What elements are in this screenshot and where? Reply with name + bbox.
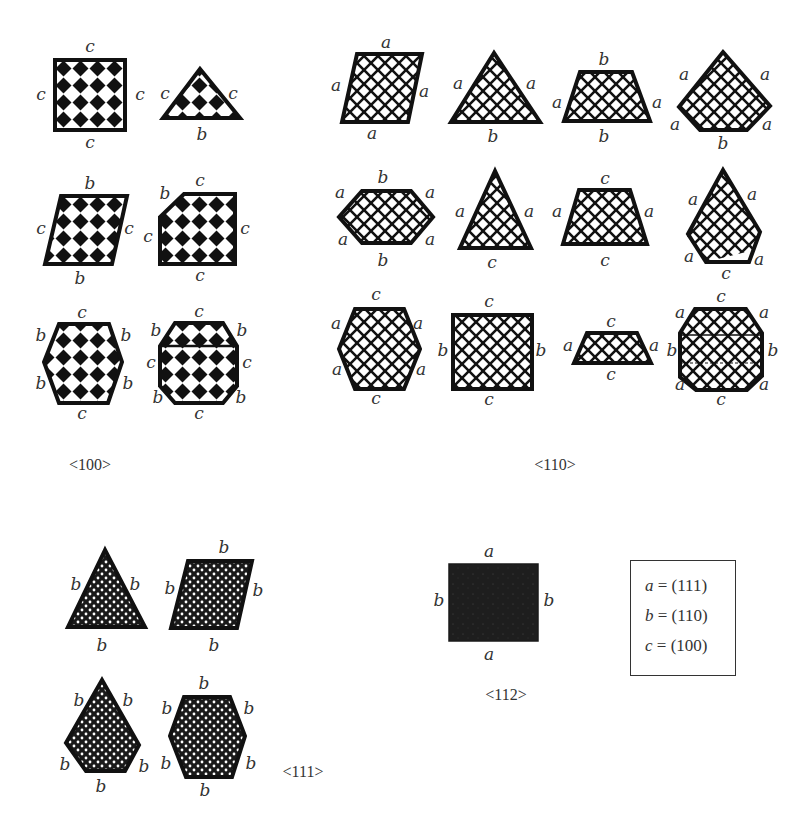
- crystal-rhombus-110: a a a a: [331, 32, 429, 143]
- edge-label: c: [194, 403, 204, 423]
- edge-label: b: [599, 126, 610, 146]
- edge-label: b: [75, 268, 86, 288]
- edge-label: c: [146, 352, 156, 372]
- edge-label: a: [381, 32, 391, 52]
- edge-label: b: [219, 537, 230, 557]
- edge-label: b: [160, 183, 171, 203]
- edge-label: b: [197, 124, 208, 144]
- edge-label: c: [195, 170, 205, 190]
- edge-label: c: [606, 311, 616, 331]
- edge-label: a: [425, 182, 435, 202]
- crystal-truncated-square-100: b c c c c: [143, 170, 250, 285]
- edge-label: c: [228, 83, 238, 103]
- edge-label: a: [367, 123, 377, 143]
- edge-label: b: [246, 753, 257, 773]
- edge-label: a: [425, 229, 435, 249]
- crystal-square-100: c c c c: [36, 36, 145, 152]
- edge-label: b: [96, 776, 107, 796]
- edge-label: a: [644, 201, 654, 221]
- edge-label: a: [684, 246, 694, 266]
- edge-label: a: [670, 114, 680, 134]
- edge-label: a: [526, 73, 536, 93]
- edge-label: b: [209, 635, 220, 655]
- edge-label: c: [135, 84, 145, 104]
- edge-label: b: [153, 387, 164, 407]
- edge-label: c: [484, 291, 494, 311]
- edge-label: a: [455, 201, 465, 221]
- edge-label: a: [453, 73, 463, 93]
- crystal-trapezoid-110-b: b a a b: [552, 49, 662, 146]
- edge-label: a: [760, 64, 770, 84]
- edge-label: b: [151, 320, 162, 340]
- edge-label: b: [768, 340, 779, 360]
- edge-label: a: [484, 541, 494, 561]
- edge-label: a: [413, 313, 423, 333]
- edge-label: c: [484, 389, 494, 409]
- crystal-triangle-111: b b b: [68, 550, 145, 655]
- edge-label: a: [563, 335, 573, 355]
- edge-label: b: [434, 590, 445, 610]
- edge-label: b: [139, 756, 150, 776]
- edge-label: b: [36, 373, 47, 393]
- edge-label: b: [165, 578, 176, 598]
- edge-label: b: [718, 133, 729, 153]
- crystal-pentagon-111: b b b b b: [60, 680, 150, 796]
- edge-label: b: [71, 574, 82, 594]
- edge-label: c: [716, 389, 726, 409]
- edge-label: b: [199, 673, 210, 693]
- edge-label: a: [416, 359, 426, 379]
- caption-111: <111>: [283, 763, 324, 780]
- edge-label: b: [237, 320, 248, 340]
- edge-label: b: [85, 173, 96, 193]
- edge-label: a: [331, 313, 341, 333]
- edge-label: b: [253, 580, 264, 600]
- crystal-octagon-110: c a a b b a a c: [667, 286, 779, 409]
- edge-label: c: [716, 286, 726, 306]
- edge-label: a: [759, 374, 769, 394]
- edge-label: c: [194, 301, 204, 321]
- edge-label: c: [240, 218, 250, 238]
- edge-label: c: [77, 403, 87, 423]
- legend-value: = (111): [658, 576, 707, 595]
- edge-label: b: [536, 340, 547, 360]
- crystal-triangle-110: a a b: [451, 53, 540, 146]
- edge-label: a: [552, 201, 562, 221]
- edge-label: a: [552, 92, 562, 112]
- edge-label: c: [160, 83, 170, 103]
- edge-label: c: [85, 132, 95, 152]
- edge-label: a: [688, 189, 698, 209]
- edge-label: b: [236, 387, 247, 407]
- edge-label: b: [123, 373, 134, 393]
- edge-label: b: [244, 698, 255, 718]
- caption-110: <110>: [534, 456, 575, 473]
- edge-label: b: [200, 780, 211, 800]
- edge-label: b: [544, 590, 555, 610]
- edge-label: b: [36, 325, 47, 345]
- edge-label: b: [130, 574, 141, 594]
- legend: a = (111) b = (110) c = (100): [630, 560, 736, 676]
- edge-label: b: [162, 698, 173, 718]
- edge-label: c: [36, 84, 46, 104]
- edge-label: c: [77, 302, 87, 322]
- edge-label: b: [378, 167, 389, 187]
- edge-label: b: [97, 635, 108, 655]
- edge-label: c: [143, 226, 153, 246]
- edge-label: a: [649, 335, 659, 355]
- edge-label: b: [60, 754, 71, 774]
- crystal-rectangle-112: a b b a: [434, 541, 555, 664]
- legend-value: = (110): [658, 606, 708, 625]
- edge-label: c: [487, 252, 497, 272]
- crystal-hexagon-100: c b b b b c: [36, 302, 134, 423]
- legend-symbol: b: [645, 606, 654, 625]
- legend-symbol: c: [645, 636, 653, 655]
- crystal-hexagon-wide-110: b a a a a b: [335, 167, 435, 270]
- caption-112: <112>: [485, 686, 526, 703]
- edge-label: c: [36, 218, 46, 238]
- edge-label: c: [124, 218, 134, 238]
- edge-label: c: [371, 284, 381, 304]
- edge-label: b: [161, 753, 172, 773]
- edge-label: a: [524, 201, 534, 221]
- legend-row-b: b = (110): [645, 601, 735, 631]
- edge-label: b: [378, 250, 389, 270]
- edge-label: a: [331, 75, 341, 95]
